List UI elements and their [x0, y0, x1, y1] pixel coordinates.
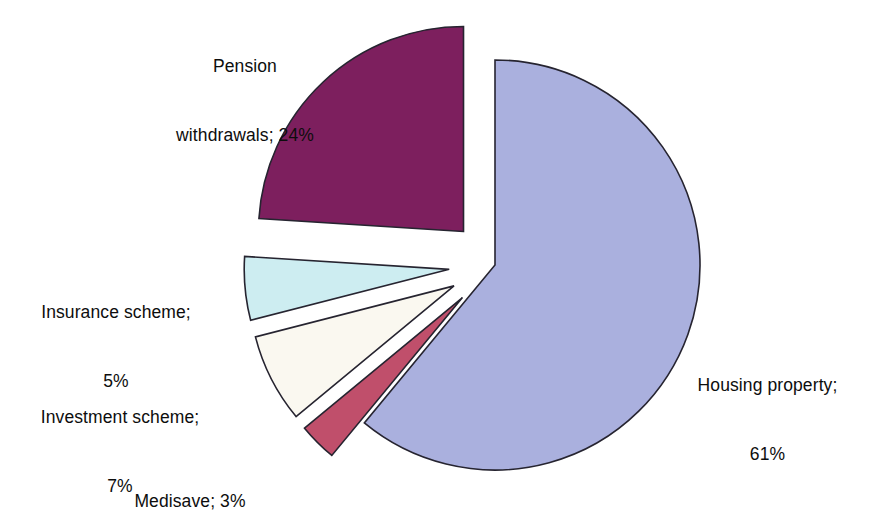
slice-label-pension-line2: withdrawals; 24% [139, 124, 351, 147]
slice-label-housing-line2: 61% [660, 443, 875, 466]
slice-label-housing-line1: Housing property; [660, 374, 875, 397]
slice-label-housing-property: Housing property; 61% [660, 328, 875, 512]
slice-label-investment-line1: Investment scheme; [4, 406, 236, 429]
slice-label-pension-line1: Pension [139, 55, 351, 78]
slice-label-insurance-line1: Insurance scheme; [8, 301, 224, 324]
slice-label-medisave: Medisave; 3% [80, 444, 300, 514]
slice-label-pension-withdrawals: Pension withdrawals; 24% [139, 9, 351, 193]
slice-label-medisave-line1: Medisave; 3% [80, 490, 300, 513]
